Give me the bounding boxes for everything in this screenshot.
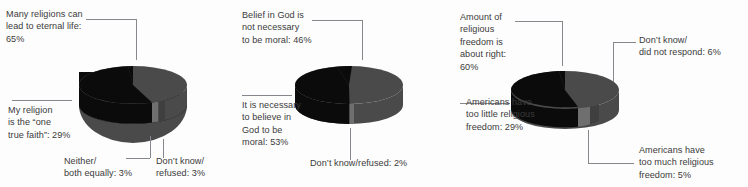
callout-belief-not-necessary: Belief in God is not necessary to be mor… (242, 9, 334, 46)
callout-too-much-religious-freedom: Americans have too much religious freedo… (639, 144, 745, 181)
cylinder-top-1 (79, 66, 187, 104)
callout-necessary-to-believe: It is necessary to believe in God to be … (242, 99, 326, 149)
infographic-three-pie-charts: Many religions can lead to eternal life:… (0, 0, 748, 187)
callout-one-true-faith: My religion is the “one true faith”: 29% (8, 104, 90, 141)
callout-dont-know-refused-2: Don’t know/refused: 2% (310, 157, 460, 169)
callout-too-little-religious-freedom: Americans have too little religious free… (466, 96, 566, 133)
callout-neither-both-equally: Neither/ both equally: 3% (64, 155, 140, 180)
callout-dont-know-refused-1: Don’t know/ refused: 3% (156, 155, 236, 180)
callout-dont-know-did-not-respond: Don’t know/ did not respond: 6% (639, 34, 747, 59)
pie-chart-religious-freedom: Amount of religious freedom is about rig… (458, 0, 748, 187)
callout-about-right: Amount of religious freedom is about rig… (460, 11, 522, 73)
callout-many-religions-eternal-life: Many religions can lead to eternal life:… (6, 8, 102, 45)
pie-chart-belief-in-god: Belief in God is not necessary to be mor… (240, 0, 458, 187)
pie-chart-eternal-life: Many religions can lead to eternal life:… (0, 0, 240, 187)
